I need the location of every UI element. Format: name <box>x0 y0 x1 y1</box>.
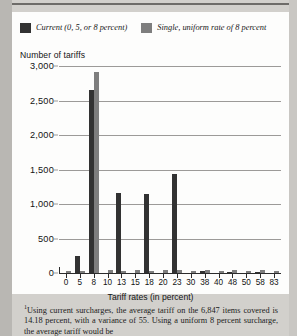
page-right-margin <box>289 0 297 336</box>
y-tick-label: 1,500 <box>30 165 54 175</box>
x-tick-label: 5 <box>73 278 87 290</box>
x-tick-label: 50 <box>239 278 253 290</box>
y-tick-mark <box>54 238 58 239</box>
x-tick-label: 40 <box>212 278 226 290</box>
y-tick-mark <box>54 135 58 136</box>
x-tick-label: 8 <box>87 278 101 290</box>
x-tick-label: 20 <box>156 278 170 290</box>
x-tick-label: 83 <box>267 278 281 290</box>
footnote: 1Using current surcharges, the average t… <box>24 302 278 336</box>
x-tick-label: 15 <box>128 278 142 290</box>
y-tick-mark <box>54 273 58 274</box>
bar-group <box>142 66 156 273</box>
bar-group <box>267 66 281 273</box>
scanned-page-background: Current (0, 5, or 8 percent) Single, uni… <box>0 0 297 336</box>
plot-area: 05001,0001,5002,0002,5003,000 <box>59 66 281 274</box>
bar-group <box>73 66 87 273</box>
chart-panel: Current (0, 5, or 8 percent) Single, uni… <box>12 12 289 294</box>
y-tick-mark <box>54 66 58 67</box>
page-top-rule <box>12 3 289 5</box>
x-tick-label: 38 <box>198 278 212 290</box>
y-tick-label: 2,000 <box>30 130 54 140</box>
bar-group <box>253 66 267 273</box>
y-tick-mark <box>54 204 58 205</box>
x-tick-label: 23 <box>170 278 184 290</box>
y-tick-label: 3,000 <box>30 61 54 71</box>
y-tick-label: 0 <box>49 268 54 278</box>
x-tick-label: 10 <box>101 278 115 290</box>
bar <box>144 194 149 273</box>
bar-group <box>87 66 101 273</box>
x-tick-label: 13 <box>115 278 129 290</box>
x-tick-label: 48 <box>226 278 240 290</box>
legend-swatch-current <box>20 23 31 33</box>
bar <box>94 72 99 273</box>
footnote-text: Using current surcharges, the average ta… <box>24 306 278 336</box>
y-tick-label: 500 <box>38 234 54 244</box>
bar-group <box>59 66 73 273</box>
bar-group <box>101 66 115 273</box>
bar-group <box>226 66 240 273</box>
bar-group <box>184 66 198 273</box>
y-axis-title: Number of tariffs <box>20 50 85 60</box>
bar-group <box>156 66 170 273</box>
x-tick-label: 18 <box>142 278 156 290</box>
x-tick-label: 58 <box>253 278 267 290</box>
y-tick-label: 1,000 <box>30 199 54 209</box>
legend-label-uniform: Single, uniform rate of 8 percent <box>157 23 266 33</box>
bar-group <box>198 66 212 273</box>
x-axis-tick-labels: 05810131518202330384048505883 <box>59 278 281 290</box>
y-tick-label: 2,500 <box>30 96 54 106</box>
x-axis-title: Tariff rates (in percent) <box>12 292 289 302</box>
x-tick-label: 0 <box>59 278 73 290</box>
bar <box>172 174 177 273</box>
bar-groups <box>59 66 281 273</box>
y-axis-line <box>59 267 60 274</box>
x-tick-label: 30 <box>184 278 198 290</box>
y-tick-mark <box>54 169 58 170</box>
bar-group <box>239 66 253 273</box>
bar <box>116 193 121 273</box>
chart-legend: Current (0, 5, or 8 percent) Single, uni… <box>20 21 284 35</box>
bar-group <box>170 66 184 273</box>
legend-label-current: Current (0, 5, or 8 percent) <box>36 23 127 33</box>
legend-swatch-uniform <box>141 23 152 33</box>
bar-group <box>212 66 226 273</box>
bar-group <box>115 66 129 273</box>
y-tick-mark <box>54 100 58 101</box>
bar-group <box>128 66 142 273</box>
page-left-margin <box>0 0 12 336</box>
